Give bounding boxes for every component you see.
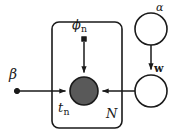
node-t-n bbox=[70, 77, 98, 105]
node-w bbox=[135, 75, 167, 107]
node-beta bbox=[14, 88, 19, 93]
node-label-beta: β bbox=[9, 67, 17, 81]
node-phi-n bbox=[82, 37, 86, 41]
node-label-phi-n: ϕn bbox=[72, 18, 87, 31]
node-label-t-n: tn bbox=[58, 101, 69, 114]
node-label-w: w bbox=[154, 63, 163, 74]
node-label-alpha: α bbox=[156, 2, 163, 13]
plate-label-n: N bbox=[106, 107, 117, 120]
node-alpha bbox=[135, 13, 167, 45]
graphical-model-canvas bbox=[0, 0, 177, 140]
plate-diagram-figure: ϕn tn β α w N bbox=[0, 0, 177, 140]
